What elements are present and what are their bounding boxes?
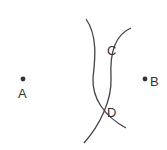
construction-diagram: A B C D [0,0,167,150]
point-a [21,77,26,82]
point-b [143,77,148,82]
label-b: B [150,74,159,89]
label-a: A [18,86,27,101]
label-d: D [107,105,116,120]
label-c: C [107,43,116,58]
